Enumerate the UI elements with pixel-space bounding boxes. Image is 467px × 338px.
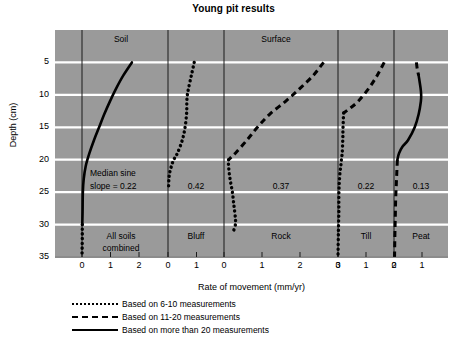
series-rock (229, 62, 324, 159)
x-tick-label: 1 (412, 260, 432, 270)
series-peat-tail (395, 160, 398, 257)
x-tick-label: 0 (214, 260, 234, 270)
y-tick-label: 10 (23, 89, 49, 99)
group-label-soil: Soil (114, 34, 128, 44)
median-sine-slope-note-line2: slope = 0.22 (90, 181, 137, 191)
x-tick-label: 1 (187, 260, 207, 270)
series-peat-head (416, 62, 418, 75)
y-tick-label: 25 (23, 186, 49, 196)
legend-item: Based on 6-10 measurements (72, 297, 269, 310)
panel-name-rock: Rock (271, 231, 290, 241)
x-tick-label: 1 (252, 260, 272, 270)
x-tick-label: 1 (101, 260, 121, 270)
median-sine-slope-note-line1: Median sine (90, 168, 136, 178)
panel-name-bluff: Bluff (188, 231, 205, 241)
panel-name-all-soils-combined: combined (103, 243, 140, 253)
slope-value-rock: 0.37 (273, 181, 290, 191)
series-bluff (169, 62, 195, 188)
legend-label: Based on 6-10 measurements (122, 299, 236, 309)
x-axis-label: Rate of movement (mm/yr) (55, 282, 448, 292)
y-tick-label: 35 (23, 251, 49, 261)
x-tick-label: 0 (72, 260, 92, 270)
legend-item: Based on 11-20 measurements (72, 310, 269, 323)
series-peat (397, 75, 421, 159)
slope-value-till: 0.22 (358, 181, 375, 191)
x-tick-label: 1 (356, 260, 376, 270)
x-tick-label: 2 (290, 260, 310, 270)
y-tick-label: 15 (23, 121, 49, 131)
slope-value-bluff: 0.42 (188, 181, 205, 191)
chart-legend: Based on 6-10 measurements Based on 11-2… (72, 297, 269, 336)
legend-item: Based on more than 20 measurements (72, 323, 269, 336)
series-till-tail (338, 113, 344, 257)
solid-line-icon (72, 324, 118, 335)
legend-label: Based on more than 20 measurements (122, 325, 269, 335)
legend-label: Based on 11-20 measurements (122, 312, 240, 322)
y-tick-label: 30 (23, 219, 49, 229)
chart-figure: Young pit results Depth (cm) 51015202530… (0, 0, 467, 338)
series-rock-tail (228, 160, 235, 231)
panel-name-all-soils-combined: All soils (107, 231, 136, 241)
group-label-surface: Surface (261, 34, 290, 44)
panel-name-peat: Peat (412, 231, 430, 241)
x-tick-label: 0 (328, 260, 348, 270)
y-tick-label: 20 (23, 154, 49, 164)
panel-name-till: Till (361, 231, 372, 241)
series-all-soils-combined (82, 62, 132, 224)
dashed-line-icon (72, 311, 118, 322)
series-till (344, 62, 385, 113)
y-tick-label: 5 (23, 56, 49, 66)
x-tick-label: 2 (129, 260, 149, 270)
y-axis-label: Depth (cm) (8, 90, 18, 160)
dotted-line-icon (72, 298, 118, 309)
slope-value-peat: 0.13 (413, 181, 430, 191)
x-tick-label: 0 (158, 260, 178, 270)
x-tick-label: 0 (384, 260, 404, 270)
panel-zero-axes (82, 30, 394, 257)
